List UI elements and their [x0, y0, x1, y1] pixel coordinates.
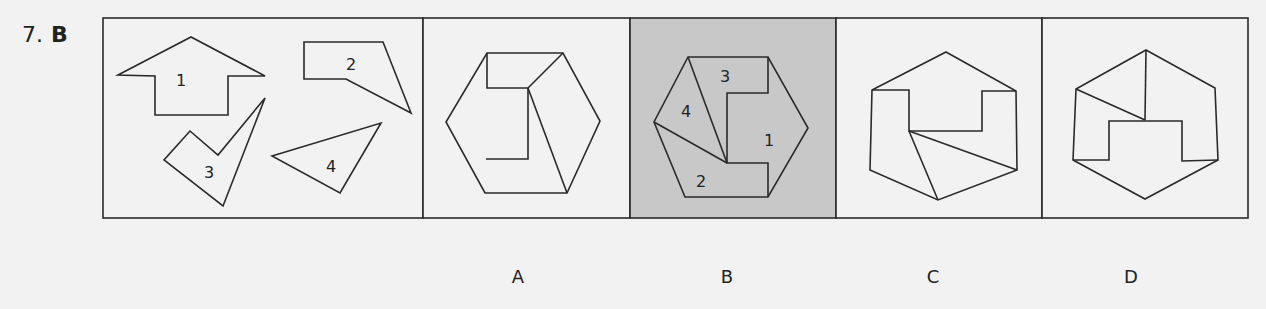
- option-a-label[interactable]: A: [498, 266, 538, 287]
- piece-4-label: 4: [326, 157, 336, 176]
- piece-1-label: 1: [176, 71, 186, 90]
- option-d-panel[interactable]: [1042, 18, 1248, 218]
- option-b-label-2: 2: [696, 172, 706, 191]
- option-d-label[interactable]: D: [1111, 266, 1151, 287]
- piece-2-label: 2: [346, 55, 356, 74]
- option-a-panel[interactable]: [423, 18, 630, 218]
- option-c-panel[interactable]: [836, 18, 1042, 218]
- option-c-label[interactable]: C: [913, 266, 953, 287]
- piece-3-label: 3: [204, 163, 214, 182]
- puzzle-figure: 1 2 3 4 3 4 1 2: [0, 0, 1266, 309]
- option-b-panel[interactable]: [630, 18, 836, 218]
- option-b-label[interactable]: B: [707, 266, 747, 287]
- option-b-label-3: 3: [720, 67, 730, 86]
- panel-pieces: [103, 18, 423, 218]
- option-b-label-4: 4: [681, 102, 691, 121]
- option-b-label-1: 1: [764, 131, 774, 150]
